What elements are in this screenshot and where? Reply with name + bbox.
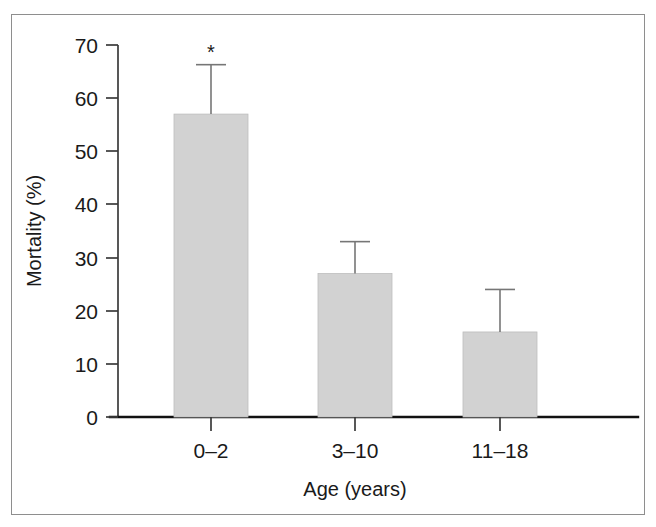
bar-2 <box>463 332 537 417</box>
error-bar-1 <box>340 242 370 274</box>
x-tick-marks <box>211 417 500 431</box>
y-tick-label-20: 20 <box>75 300 98 323</box>
y-tick-label-70: 70 <box>75 34 98 57</box>
y-tick-label-10: 10 <box>75 353 98 376</box>
y-tick-label-50: 50 <box>75 140 98 163</box>
error-bar-0 <box>196 65 226 114</box>
x-tick-label-1: 3–10 <box>332 439 379 462</box>
bar-chart: 70 60 50 40 30 20 10 0 Mortality (%) <box>0 0 656 527</box>
x-axis-title: Age (years) <box>303 478 406 500</box>
x-tick-label-2: 11–18 <box>472 439 529 462</box>
y-tick-label-60: 60 <box>75 87 98 110</box>
y-tick-label-30: 30 <box>75 247 98 270</box>
y-axis-title: Mortality (%) <box>23 175 45 287</box>
y-tick-label-40: 40 <box>75 193 98 216</box>
bar-0 <box>174 114 248 417</box>
significance-asterisk: * <box>207 41 215 63</box>
x-tick-labels: 0–2 3–10 11–18 <box>193 439 528 462</box>
y-tick-labels: 70 60 50 40 30 20 10 0 <box>75 34 98 429</box>
error-bar-2 <box>485 289 515 332</box>
y-tick-marks <box>106 45 118 417</box>
figure-container: 70 60 50 40 30 20 10 0 Mortality (%) <box>0 0 656 527</box>
x-tick-label-0: 0–2 <box>193 439 228 462</box>
y-tick-label-0: 0 <box>86 406 98 429</box>
bar-1 <box>318 274 392 417</box>
